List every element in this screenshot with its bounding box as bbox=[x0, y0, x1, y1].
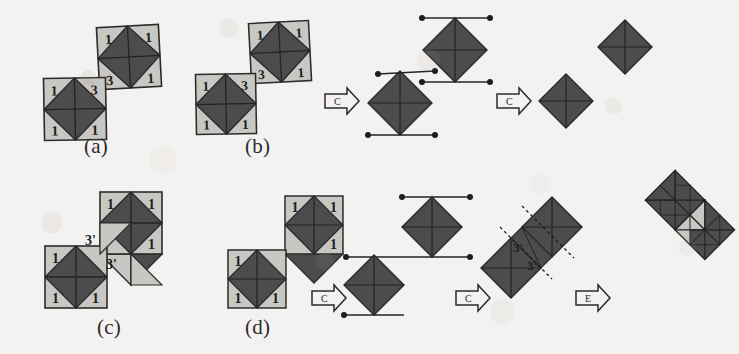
tile-corner-label: 1 bbox=[105, 32, 113, 47]
diamond-upper bbox=[419, 15, 493, 85]
panel-d-stage-final bbox=[645, 170, 734, 259]
panel-b-caption: (b) bbox=[245, 134, 270, 159]
tile-corner-label: 1 bbox=[51, 123, 58, 138]
panel-d-arrow-c-2: C bbox=[456, 285, 490, 311]
panel-d: 1 1 1 1 1 1 C bbox=[228, 170, 735, 318]
arrow-label: C bbox=[506, 96, 513, 107]
panel-a-tile-lower-left: 1 3 1 1 bbox=[43, 77, 106, 140]
arrow-label: E bbox=[585, 293, 591, 304]
arrow-label: C bbox=[465, 293, 472, 304]
panel-c: 1 1 1 1 1 1 3' 3' bbox=[45, 192, 162, 308]
tile-corner-label: 3 bbox=[91, 83, 98, 98]
panel-c-joint-label-lower: 3' bbox=[106, 257, 117, 272]
tile-corner-label: 1 bbox=[203, 117, 210, 132]
panel-d-dotted-label-upper: 3' bbox=[513, 240, 523, 255]
tile-corner-label: 1 bbox=[235, 254, 242, 269]
panel-b: 1 1 3 1 1 3 1 1 C bbox=[195, 15, 652, 138]
panel-d-stage-middle bbox=[341, 194, 473, 318]
tile-corner-label: 1 bbox=[145, 30, 153, 45]
diamond-lower-final bbox=[539, 74, 593, 128]
tile-corner-label: 1 bbox=[272, 291, 279, 306]
panel-c-caption: (c) bbox=[97, 315, 121, 340]
tile-corner-label: 1 bbox=[92, 291, 99, 306]
figure-canvas: 1 1 3 1 1 3 1 1 1 1 3 1 1 3 1 1 bbox=[0, 0, 739, 354]
tile-corner-label: 3 bbox=[258, 67, 266, 82]
panel-d-arrow-c-1: C bbox=[312, 285, 346, 311]
panel-a: 1 1 3 1 1 3 1 1 bbox=[43, 24, 161, 140]
panel-b-arrow-c-1: C bbox=[325, 88, 359, 114]
panel-a-caption: (a) bbox=[84, 134, 108, 159]
tile-corner-label: 1 bbox=[52, 291, 59, 306]
tile-corner-label: 1 bbox=[297, 65, 305, 80]
tile-corner-label: 3 bbox=[241, 78, 248, 93]
panel-b-arrow-c-2: C bbox=[497, 88, 531, 114]
panel-b-stage-final bbox=[539, 20, 652, 128]
arrow-label: C bbox=[334, 96, 341, 107]
tile-corner-label: 1 bbox=[52, 251, 59, 266]
panel-c-composite: 1 1 1 1 1 1 3' 3' bbox=[45, 192, 162, 308]
tile-corner-label: 1 bbox=[235, 291, 242, 306]
tile-corner-label: 1 bbox=[147, 71, 155, 86]
tile-corner-label: 1 bbox=[292, 200, 299, 215]
diamond-lower bbox=[341, 254, 404, 318]
tile-corner-label: 1 bbox=[295, 25, 303, 40]
tile-corner-label: 1 bbox=[242, 117, 249, 132]
panel-d-dotted-label-lower: 3' bbox=[527, 258, 537, 273]
panel-d-arrow-e-1: E bbox=[576, 285, 610, 311]
diamond-lower bbox=[365, 68, 438, 138]
diamond-upper-final bbox=[598, 20, 652, 74]
panel-c-tile-lower-left: 1 1 1 bbox=[45, 246, 107, 308]
panel-d-tile-upper-right: 1 1 1 bbox=[285, 196, 343, 254]
tile-corner-label: 1 bbox=[148, 237, 155, 252]
tile-corner-label: 1 bbox=[202, 79, 209, 94]
tile-corner-label: 1 bbox=[330, 200, 337, 215]
panel-b-stage-middle bbox=[365, 15, 493, 138]
arrow-label: C bbox=[321, 293, 328, 304]
tile-corner-label: 1 bbox=[256, 27, 264, 42]
panel-d-tile-lower-left: 1 1 1 bbox=[228, 250, 286, 308]
tile-corner-label: 1 bbox=[51, 83, 58, 98]
tile-corner-label: 1 bbox=[107, 197, 114, 212]
panel-b-tile-lower-left: 1 3 1 1 bbox=[195, 73, 256, 134]
panel-b-tile-upper-right: 1 1 3 1 bbox=[248, 20, 311, 83]
diamond-upper bbox=[346, 194, 473, 260]
tile-corner-label: 1 bbox=[148, 197, 155, 212]
tile-corner-label: 3 bbox=[106, 73, 114, 88]
panel-c-joint-label-upper: 3' bbox=[85, 233, 96, 248]
panel-d-caption: (d) bbox=[245, 315, 270, 340]
tile-corner-label: 1 bbox=[330, 237, 337, 252]
panel-d-stage-dotted: 3' 3' bbox=[481, 197, 582, 298]
